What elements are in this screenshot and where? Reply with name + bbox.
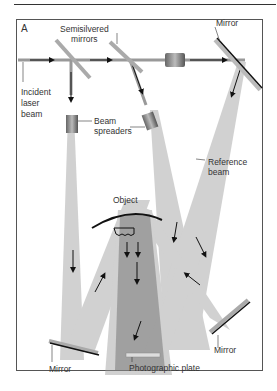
panel-label: A xyxy=(21,24,28,34)
mirror-top-label: Mirror xyxy=(216,18,238,28)
photographic-plate-label: Photographic plate xyxy=(129,363,200,373)
holography-diagram xyxy=(0,0,277,391)
beam-spreader-left xyxy=(66,115,78,133)
beam-spreaders-label: Beam spreaders xyxy=(94,116,132,136)
semisilvered-mirror-2 xyxy=(110,42,142,72)
incident-laser-beam-label: Incident laser beam xyxy=(21,87,51,120)
mirror-right-label: Mirror xyxy=(214,345,236,355)
lens-cylinder xyxy=(165,53,185,67)
mirror-left-label: Mirror xyxy=(49,364,71,374)
photographic-plate xyxy=(126,353,160,357)
semisilvered-mirrors-label: Semisilvered mirrors xyxy=(60,24,109,44)
reference-beam-label: Reference beam xyxy=(208,157,247,177)
object-label: Object xyxy=(113,195,138,205)
